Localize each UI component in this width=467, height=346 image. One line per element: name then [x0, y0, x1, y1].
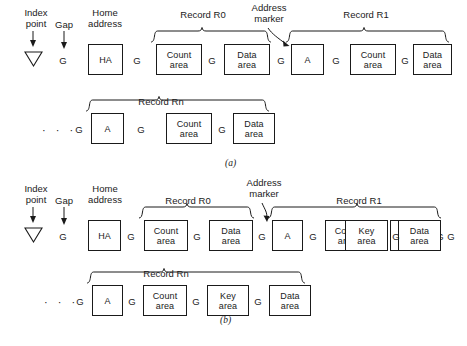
data-area-text-2: area [281, 301, 299, 311]
home-address-label-line2: address [81, 195, 129, 206]
address-marker-label-line2: marker [238, 189, 290, 200]
gap-g: G [256, 231, 268, 242]
record-r1-label: Record R1 [330, 9, 402, 20]
gap-g: G [275, 55, 287, 66]
panel-a-sublabel: (a) [225, 158, 236, 168]
count-area-text-2: area [180, 129, 198, 139]
data-area-text-1: Data [237, 50, 256, 60]
index-point-label-line1: Index [14, 184, 58, 195]
data-area-box: Data area [233, 113, 275, 144]
count-area-text-2: area [170, 60, 188, 70]
count-area-text-2: area [156, 301, 174, 311]
data-area-text-1: Data [410, 226, 429, 236]
gap-g: G [206, 55, 218, 66]
gap-g: G [399, 55, 411, 66]
address-marker-box-text: A [104, 296, 110, 306]
address-marker-box-text: A [304, 55, 310, 65]
home-address-label-line2: address [81, 19, 129, 30]
panel-b-sublabel: (b) [220, 315, 231, 325]
key-area-box: Key area [345, 220, 388, 251]
data-area-text-1: Data [221, 226, 240, 236]
data-area-text-2: area [245, 129, 263, 139]
count-area-text-1: Count [153, 291, 178, 301]
count-area-text-2: area [364, 60, 382, 70]
address-marker-box-text: A [284, 231, 290, 241]
count-area-text-1: Count [154, 226, 179, 236]
gap-g: G [73, 124, 85, 135]
gap-label: Gap [47, 19, 81, 30]
data-area-box: Data area [269, 285, 311, 316]
data-area-text-2: area [238, 60, 256, 70]
count-area-text-2: area [157, 236, 175, 246]
gap-g: G [190, 296, 202, 307]
data-area-text-1: Data [280, 291, 299, 301]
gap-label: Gap [47, 195, 81, 206]
count-area-text-1: Count [361, 50, 386, 60]
home-address-label-line1: Home [81, 184, 129, 195]
gap-g: G [135, 124, 147, 135]
data-area-box: Data area [413, 44, 452, 75]
gap-g: G [74, 296, 86, 307]
count-area-text-1: Count [167, 50, 192, 60]
data-area-box: Data area [224, 44, 270, 75]
panel-b: Index point Gap Home address Record R0 A… [0, 173, 467, 346]
gap-g: G [126, 296, 138, 307]
gap-g: G [125, 231, 137, 242]
home-address-box: HA [88, 44, 123, 75]
gap-g: G [390, 231, 402, 242]
count-area-box: Count area [143, 285, 187, 316]
count-area-box: Count area [156, 44, 202, 75]
key-area-text-1: Key [359, 226, 375, 236]
count-area-text-1: Count [177, 119, 202, 129]
data-area-box: Data area [398, 220, 441, 251]
gap-g: G [131, 55, 143, 66]
data-area-box: Data area [209, 220, 253, 251]
home-address-box: HA [88, 220, 121, 251]
key-area-text-2: area [219, 301, 237, 311]
count-area-box: Count area [144, 220, 188, 251]
address-marker-label-line1: Address [238, 178, 290, 189]
record-rn-label: Record Rn [130, 268, 202, 279]
gap-g: G [57, 55, 69, 66]
gap-g: G [445, 231, 457, 242]
gap-g: G [191, 231, 203, 242]
address-marker-box: A [272, 220, 303, 251]
gap-g: G [330, 55, 342, 66]
address-marker-box: A [291, 44, 324, 75]
gap-g: G [216, 124, 228, 135]
address-marker-box-text: A [104, 124, 110, 134]
record-r0-label: Record R0 [167, 9, 239, 20]
record-r1-label: Record R1 [323, 195, 395, 206]
key-area-box: Key area [207, 285, 249, 316]
address-marker-label-line2: marker [243, 14, 295, 25]
data-area-text-2: area [410, 236, 428, 246]
panel-a: Index point Gap Home address Record R0 A… [0, 0, 467, 173]
count-area-box: Count area [166, 113, 212, 144]
record-rn-label: Record Rn [125, 96, 197, 107]
gap-g: G [252, 296, 264, 307]
data-area-text-2: area [423, 60, 441, 70]
gap-g: G [57, 231, 69, 242]
address-marker-box: A [91, 113, 124, 144]
home-address-box-text: HA [99, 55, 112, 65]
data-area-text-1: Data [423, 50, 442, 60]
count-area-box: Count area [350, 44, 396, 75]
key-area-text-2: area [357, 236, 375, 246]
page-caption-sliver [26, 339, 446, 346]
index-point-label-line1: Index [14, 8, 58, 19]
gap-g: G [307, 231, 319, 242]
key-area-text-1: Key [220, 291, 236, 301]
data-area-text-2: area [222, 236, 240, 246]
home-address-label-line1: Home [81, 8, 129, 19]
record-r0-label: Record R0 [152, 195, 224, 206]
ellipsis: · · · [42, 125, 77, 136]
address-marker-label-line1: Address [243, 3, 295, 14]
address-marker-box: A [92, 285, 123, 316]
data-area-text-1: Data [244, 119, 263, 129]
home-address-box-text: HA [98, 231, 111, 241]
